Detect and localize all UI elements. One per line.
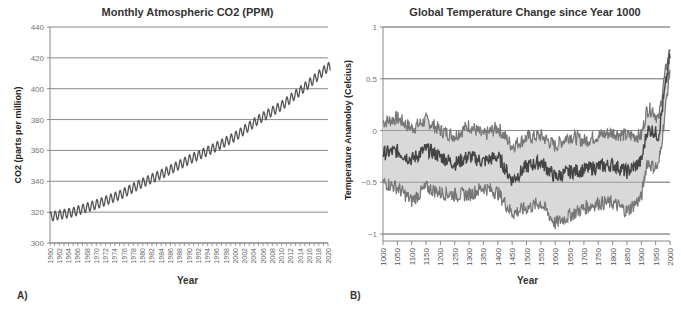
x-tick-label: 1984 (158, 248, 165, 264)
x-tick-label: 1950 (652, 247, 661, 265)
x-tick-label: 2012 (287, 248, 294, 264)
y-tick-label: 0.5 (366, 75, 378, 84)
x-tick-label: 2020 (325, 248, 332, 264)
x-tick-label: 2004 (250, 248, 257, 264)
x-tick-label: 1400 (494, 247, 503, 265)
x-tick-label: 1100 (408, 247, 417, 265)
x-tick-label: 1750 (594, 247, 603, 265)
x-tick-label: 1800 (609, 247, 618, 265)
y-tick-label: 340 (31, 177, 45, 186)
x-tick-label: 1982 (148, 248, 155, 264)
x-axis-label: Year (177, 275, 198, 286)
x-tick-label: 1978 (130, 248, 137, 264)
x-tick-label: 1600 (551, 247, 560, 265)
x-tick-label: 1990 (186, 248, 193, 264)
x-tick-label: 2000 (232, 248, 239, 264)
x-tick-label: 1976 (121, 248, 128, 264)
x-tick-label: 1150 (422, 247, 431, 265)
co2-series-line (50, 63, 330, 221)
x-tick-label: 1994 (204, 248, 211, 264)
y-tick-label: 420 (31, 54, 45, 63)
x-tick-label: 1998 (223, 248, 230, 264)
x-tick-label: 2014 (297, 248, 304, 264)
x-tick-label: 1974 (111, 248, 118, 264)
co2-plot-area: 3003203403603804004204401960196219641966… (0, 0, 340, 313)
x-tick-label: 2016 (306, 248, 313, 264)
x-tick-label: 1996 (213, 248, 220, 264)
x-tick-label: 1988 (176, 248, 183, 264)
panel-label-a: A) (17, 290, 28, 301)
x-tick-label: 1964 (65, 248, 72, 264)
x-tick-label: 1550 (537, 247, 546, 265)
y-tick-label: 380 (31, 116, 45, 125)
x-tick-label: 1970 (93, 248, 100, 264)
x-axis-label: Year (517, 275, 538, 286)
x-tick-label: 1650 (566, 247, 575, 265)
x-tick-label: 1050 (393, 247, 402, 265)
x-tick-label: 1450 (508, 247, 517, 265)
x-tick-label: 1972 (102, 248, 109, 264)
y-tick-label: 300 (31, 239, 45, 248)
x-tick-label: 1986 (167, 248, 174, 264)
x-tick-label: 1850 (623, 247, 632, 265)
x-tick-label: 1500 (523, 247, 532, 265)
y-tick-label: 360 (31, 146, 45, 155)
y-tick-label: 0 (373, 127, 378, 136)
x-tick-label: 1700 (580, 247, 589, 265)
temperature-plot-area: −1−0.500.5110001050110011501200125013001… (340, 0, 681, 313)
y-tick-label: 400 (31, 85, 45, 94)
y-tick-label: 1 (373, 23, 378, 32)
panel-label-b: B) (350, 290, 361, 301)
co2-chart-panel: Monthly Atmospheric CO2 (PPM) 3003203403… (0, 0, 340, 313)
y-tick-label: −1 (368, 230, 378, 239)
x-tick-label: 1350 (479, 247, 488, 265)
x-tick-label: 1968 (84, 248, 91, 264)
x-tick-label: 1900 (637, 247, 646, 265)
temperature-chart-panel: Global Temperature Change since Year 100… (340, 0, 681, 313)
x-tick-label: 2000 (666, 247, 675, 265)
x-tick-label: 2006 (260, 248, 267, 264)
y-axis-label: Temperature Anamoloy (Celcius) (343, 60, 353, 200)
x-tick-label: 1960 (47, 248, 54, 264)
x-tick-label: 1300 (465, 247, 474, 265)
x-tick-label: 1992 (195, 248, 202, 264)
x-tick-label: 1250 (451, 247, 460, 265)
x-tick-label: 1000 (379, 247, 388, 265)
y-tick-label: 320 (31, 208, 45, 217)
x-tick-label: 2002 (241, 248, 248, 264)
x-tick-label: 2010 (278, 248, 285, 264)
x-tick-label: 2018 (315, 248, 322, 264)
x-tick-label: 1980 (139, 248, 146, 264)
x-tick-label: 1200 (436, 247, 445, 265)
x-tick-label: 2008 (269, 248, 276, 264)
x-tick-label: 1966 (74, 248, 81, 264)
y-axis-label: CO2 (parts per million) (13, 75, 23, 195)
y-tick-label: 440 (31, 23, 45, 32)
x-tick-label: 1962 (56, 248, 63, 264)
y-tick-label: −0.5 (361, 178, 377, 187)
